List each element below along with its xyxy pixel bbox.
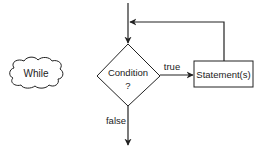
decision-question: ? — [125, 80, 130, 91]
true-label: true — [164, 61, 180, 72]
process-label: Statement(s) — [196, 69, 250, 80]
while-cloud: While — [10, 57, 63, 88]
loop-back-arrow — [130, 22, 224, 61]
flowchart-canvas: While Condition ? true Statement(s) fals… — [0, 0, 266, 149]
decision-label: Condition — [108, 67, 148, 78]
false-label: false — [106, 115, 126, 126]
statements-process: Statement(s) — [194, 61, 253, 87]
cloud-label: While — [23, 68, 48, 79]
condition-decision: Condition ? — [97, 44, 160, 106]
